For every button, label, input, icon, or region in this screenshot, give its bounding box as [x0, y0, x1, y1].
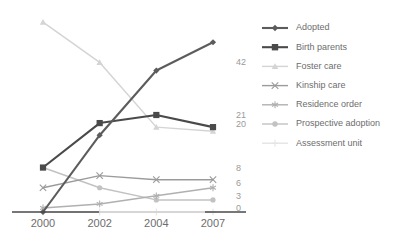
legend-label: Foster care: [296, 61, 342, 71]
data-point: [97, 120, 103, 126]
series-value-label: 20: [236, 119, 246, 129]
legend-label: Residence order: [296, 99, 362, 109]
legend-marker-plus-icon: [272, 140, 279, 147]
series-prospective-adoption: [40, 165, 215, 203]
legend-item-foster-care[interactable]: Foster care: [262, 61, 342, 71]
legend-item-assessment-unit[interactable]: Assessment unit: [262, 138, 363, 148]
series-value-label: 3: [236, 191, 241, 201]
legend-label: Prospective adoption: [296, 118, 380, 128]
series-value-label: 42: [236, 57, 246, 67]
x-axis-tick-label: 2004: [144, 217, 168, 229]
legend-label: Assessment unit: [296, 138, 363, 148]
data-point: [210, 197, 215, 202]
data-point: [40, 164, 46, 170]
legend-item-birth-parents[interactable]: Birth parents: [262, 42, 348, 52]
line-chart: 20002002200420074221208630AdoptedBirth p…: [0, 0, 397, 246]
x-axis-tick-label: 2000: [31, 217, 55, 229]
legend-label: Kinship care: [296, 80, 346, 90]
legend-item-prospective-adoption[interactable]: Prospective adoption: [262, 118, 380, 128]
data-point: [153, 112, 159, 118]
chart-plot-area: 20002002200420074221208630AdoptedBirth p…: [0, 0, 397, 246]
legend-marker-diamond-icon: [272, 25, 278, 31]
series-value-label: 6: [236, 178, 241, 188]
legend-item-adopted[interactable]: Adopted: [262, 22, 330, 32]
legend-marker-square-icon: [272, 44, 278, 50]
legend-item-residence-order[interactable]: Residence order: [262, 99, 362, 109]
legend-marker-circle-icon: [272, 121, 277, 126]
series-value-label: 8: [236, 163, 241, 173]
series-foster-care: [40, 19, 216, 134]
legend-label: Birth parents: [296, 42, 348, 52]
data-point: [210, 124, 216, 130]
legend-label: Adopted: [296, 22, 330, 32]
data-point: [97, 185, 102, 190]
x-axis-tick-label: 2007: [201, 217, 225, 229]
data-point: [40, 19, 46, 25]
series-residence-order: [40, 184, 216, 211]
series-adopted: [40, 39, 216, 215]
series-birth-parents: [40, 112, 216, 171]
legend-item-kinship-care[interactable]: Kinship care: [262, 80, 346, 90]
chart-legend: AdoptedBirth parentsFoster careKinship c…: [262, 22, 380, 147]
series-value-label: 0: [236, 203, 241, 213]
x-axis-tick-label: 2002: [87, 217, 111, 229]
